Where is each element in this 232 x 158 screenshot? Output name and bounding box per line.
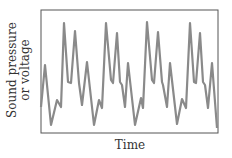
waveform-line (41, 22, 217, 128)
y-axis-label: Sound pressure or voltage (2, 20, 36, 120)
y-axis-label-line-2: or voltage (19, 22, 32, 118)
x-axis-label: Time (100, 138, 160, 152)
